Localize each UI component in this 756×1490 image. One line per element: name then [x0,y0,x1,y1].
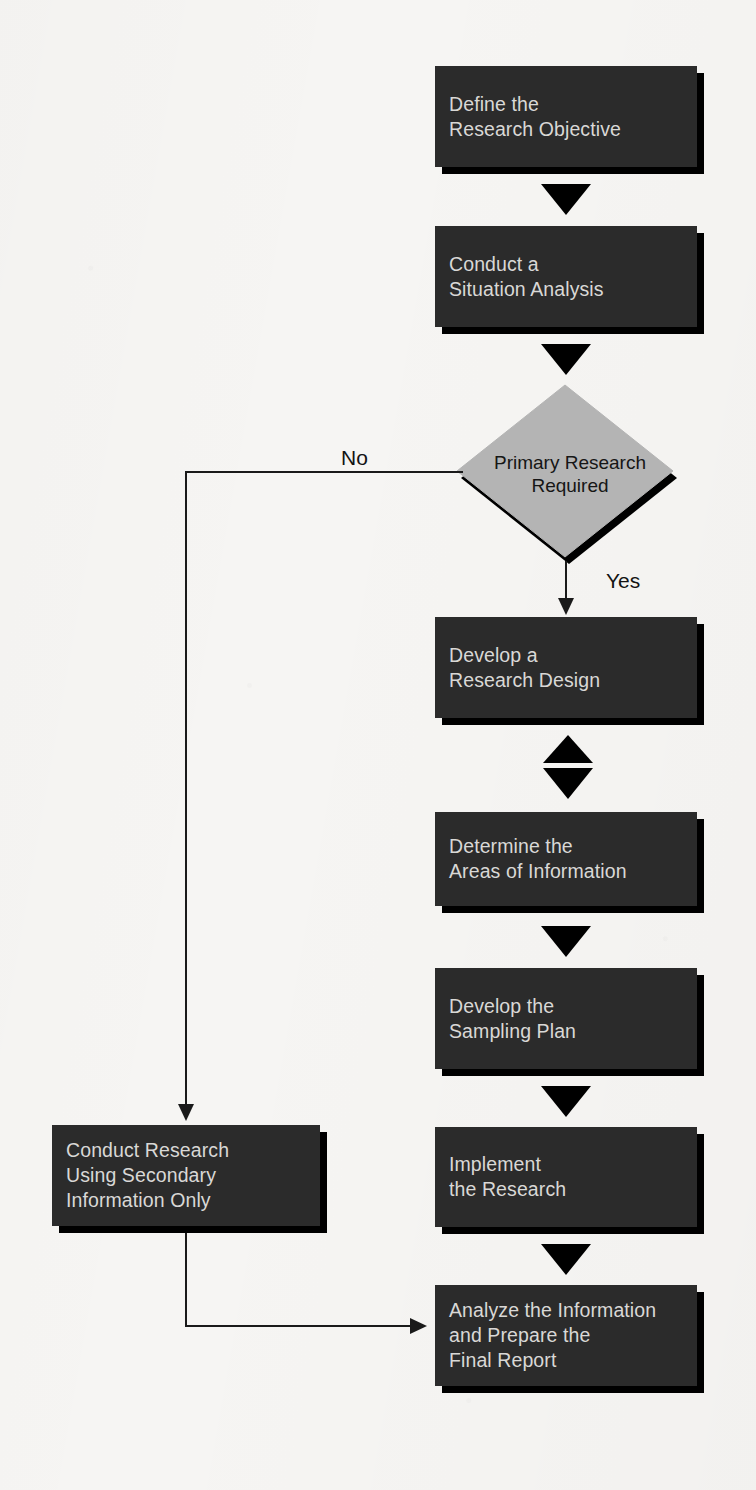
node-line: Research Design [449,668,683,693]
node-line: Research Objective [449,117,683,142]
secondary-to-analyze-horizontal-line [185,1325,413,1327]
node-areas-of-information[interactable]: Determine the Areas of Information [435,812,697,906]
yes-branch-arrowhead [558,598,574,615]
node-line: Information Only [66,1188,306,1213]
no-branch-vertical-line [185,471,187,1107]
node-line: Determine the [449,834,683,859]
paper-texture-overlay [0,0,756,1490]
arrow-implement-to-analyze [541,1244,591,1275]
node-line: Analyze the Information [449,1298,683,1323]
node-primary-research-decision[interactable]: Primary Research Required [455,383,685,571]
node-secondary-information[interactable]: Conduct Research Using Secondary Informa… [52,1125,320,1226]
node-line: Develop the [449,994,683,1019]
node-line: Define the [449,92,683,117]
node-line: Conduct Research [66,1138,306,1163]
diamond-face [455,383,685,571]
node-line: Sampling Plan [449,1019,683,1044]
arrow-design-to-areas-up [543,735,593,763]
node-line: Final Report [449,1348,683,1373]
no-branch-horizontal-line [185,471,463,473]
edge-label-yes: Yes [606,570,640,591]
node-analyze-and-report[interactable]: Analyze the Information and Prepare the … [435,1285,697,1386]
flowchart-canvas: Define the Research Objective Conduct a … [0,0,756,1490]
arrow-design-to-areas-down [543,768,593,799]
arrow-areas-to-sampling [541,926,591,957]
arrow-define-to-situation [541,184,591,215]
node-implement-research[interactable]: Implement the Research [435,1127,697,1227]
node-line: Using Secondary [66,1163,306,1188]
node-sampling-plan[interactable]: Develop the Sampling Plan [435,968,697,1069]
node-research-design[interactable]: Develop a Research Design [435,617,697,718]
node-define-objective[interactable]: Define the Research Objective [435,66,697,167]
edge-label-no: No [341,447,368,468]
yes-branch-vertical-line [565,561,567,601]
no-branch-arrowhead [178,1104,194,1121]
secondary-to-analyze-arrowhead [410,1318,427,1334]
node-situation-analysis[interactable]: Conduct a Situation Analysis [435,226,697,327]
arrow-situation-to-decision [541,344,591,375]
secondary-to-analyze-vertical-line [185,1233,187,1327]
node-line: Areas of Information [449,859,683,884]
node-line: Conduct a [449,252,683,277]
node-line: Situation Analysis [449,277,683,302]
node-line: Develop a [449,643,683,668]
arrow-sampling-to-implement [541,1086,591,1117]
node-line: and Prepare the [449,1323,683,1348]
node-line: Implement [449,1152,683,1177]
node-line: the Research [449,1177,683,1202]
